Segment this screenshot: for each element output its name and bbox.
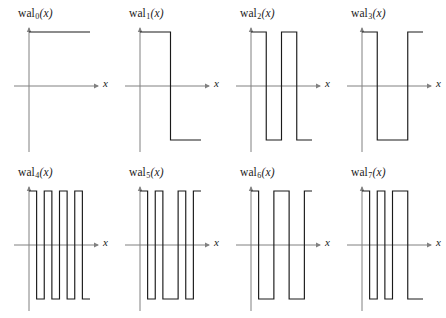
- x-axis-label-2: x: [325, 77, 330, 89]
- x-axis-arrowhead: [316, 84, 321, 89]
- walsh-plot-1: [111, 0, 222, 159]
- walsh-panel-5: wal5(x)x: [111, 159, 222, 318]
- walsh-plot-0: [0, 0, 111, 159]
- y-axis-arrowhead: [138, 186, 142, 191]
- x-axis-label-1: x: [214, 77, 219, 89]
- x-axis-label-5: x: [214, 236, 219, 248]
- y-axis-arrowhead: [138, 27, 142, 32]
- x-axis-arrowhead: [94, 84, 99, 89]
- walsh-panel-1: wal1(x)x: [111, 0, 222, 159]
- walsh-plot-6: [222, 159, 333, 318]
- walsh-panel-7: wal7(x)x: [333, 159, 444, 318]
- walsh-plot-2: [222, 0, 333, 159]
- walsh-plot-5: [111, 159, 222, 318]
- x-axis-arrowhead: [205, 84, 210, 89]
- x-axis-arrowhead: [94, 243, 99, 248]
- walsh-panel-3: wal3(x)x: [333, 0, 444, 159]
- walsh-functions-figure: wal0(x)xwal1(x)xwal2(x)xwal3(x)xwal4(x)x…: [0, 0, 446, 318]
- x-axis-arrowhead: [427, 243, 432, 248]
- walsh-panel-6: wal6(x)x: [222, 159, 333, 318]
- x-axis-label-7: x: [436, 236, 441, 248]
- x-axis-arrowhead: [205, 243, 210, 248]
- walsh-panel-2: wal2(x)x: [222, 0, 333, 159]
- walsh-plot-7: [333, 159, 444, 318]
- y-axis-arrowhead: [360, 186, 364, 191]
- y-axis-arrowhead: [27, 27, 31, 32]
- y-axis-arrowhead: [27, 186, 31, 191]
- walsh-plot-3: [333, 0, 444, 159]
- walsh-plot-4: [0, 159, 111, 318]
- y-axis-arrowhead: [360, 27, 364, 32]
- x-axis-label-6: x: [325, 236, 330, 248]
- walsh-panel-4: wal4(x)x: [0, 159, 111, 318]
- x-axis-arrowhead: [427, 84, 432, 89]
- x-axis-label-3: x: [436, 77, 441, 89]
- x-axis-label-4: x: [103, 236, 108, 248]
- y-axis-arrowhead: [249, 27, 253, 32]
- x-axis-arrowhead: [316, 243, 321, 248]
- x-axis-label-0: x: [103, 77, 108, 89]
- y-axis-arrowhead: [249, 186, 253, 191]
- walsh-panel-0: wal0(x)x: [0, 0, 111, 159]
